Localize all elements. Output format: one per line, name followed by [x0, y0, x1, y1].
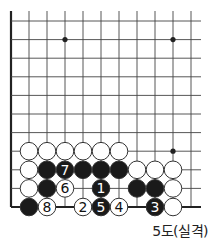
move-number: 7	[61, 162, 70, 178]
black-stone-1: 1	[92, 180, 110, 198]
white-stone	[110, 142, 128, 160]
black-stone	[146, 180, 164, 198]
move-number: 1	[97, 180, 106, 196]
black-stone	[128, 180, 146, 198]
move-number: 6	[61, 180, 70, 196]
white-stone	[164, 180, 182, 198]
diagram-caption: 5도(실격)	[152, 220, 208, 240]
black-stone	[38, 180, 56, 198]
white-stone	[20, 180, 38, 198]
black-stone	[92, 161, 110, 179]
white-stone-2: 2	[74, 198, 92, 216]
star-point-icon	[170, 37, 175, 42]
black-stone-7: 7	[56, 161, 74, 179]
white-stone-6: 6	[56, 180, 74, 198]
move-number: 8	[43, 199, 52, 215]
white-stone-8: 8	[38, 198, 56, 216]
white-stone	[164, 161, 182, 179]
go-board: 76182543	[0, 0, 210, 240]
white-stone	[20, 142, 38, 160]
star-point-icon	[62, 37, 67, 42]
white-stone	[38, 142, 56, 160]
move-number: 2	[79, 199, 88, 215]
white-stone	[146, 161, 164, 179]
stones: 76182543	[20, 142, 182, 215]
white-stone	[20, 161, 38, 179]
move-number: 3	[151, 199, 160, 215]
white-stone	[56, 142, 74, 160]
white-stone	[74, 142, 92, 160]
white-stone	[128, 161, 146, 179]
white-stone	[92, 142, 110, 160]
black-stone-5: 5	[92, 198, 110, 216]
white-stone-4: 4	[110, 198, 128, 216]
black-stone-3: 3	[146, 198, 164, 216]
black-stone	[74, 161, 92, 179]
star-point-icon	[170, 149, 175, 154]
move-number: 4	[115, 199, 124, 215]
white-stone	[164, 198, 182, 216]
move-number: 5	[97, 199, 106, 215]
black-stone	[110, 161, 128, 179]
black-stone	[38, 161, 56, 179]
black-stone	[20, 198, 38, 216]
